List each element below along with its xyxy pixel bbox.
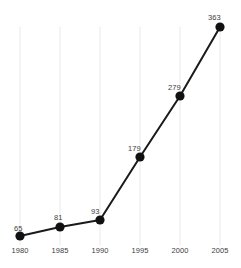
x-tick-1980: 1980 [11,247,28,255]
data-point-1990[interactable] [95,215,104,224]
data-point-1985[interactable] [55,222,64,231]
value-label-2005: 363 [208,14,221,22]
value-label-1995: 179 [128,145,141,153]
value-label-2000: 279 [168,84,181,92]
x-tick-2005: 2005 [211,247,228,255]
data-point-1995[interactable] [135,152,144,161]
line-chart: 658193179279363 198019851990199520002005 [0,0,241,268]
series-line [20,27,220,236]
value-label-1990: 93 [91,208,100,216]
value-label-1985: 81 [54,214,63,222]
gridlines [20,27,220,245]
data-point-markers [15,22,224,240]
x-tick-1985: 1985 [51,247,68,255]
x-tick-1995: 1995 [131,247,148,255]
x-tick-1990: 1990 [91,247,108,255]
data-point-2005[interactable] [215,22,224,31]
value-label-1980: 65 [14,225,23,233]
x-tick-2000: 2000 [171,247,188,255]
chart-plot-area [0,0,241,268]
data-point-2000[interactable] [175,91,184,100]
